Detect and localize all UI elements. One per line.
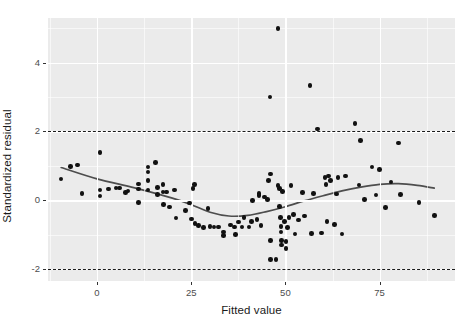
- data-point: [291, 212, 296, 217]
- data-point: [249, 219, 254, 224]
- data-point: [289, 183, 294, 188]
- data-point: [285, 225, 290, 230]
- data-point: [265, 197, 270, 202]
- data-point: [334, 192, 339, 197]
- data-point: [266, 178, 271, 183]
- data-point: [325, 219, 330, 224]
- x-tick-mark: [285, 282, 286, 285]
- data-point: [319, 231, 324, 236]
- y-tick-mark: [43, 200, 46, 201]
- y-tick-mark: [43, 63, 46, 64]
- gridline-minor-vertical: [427, 18, 428, 281]
- data-point: [161, 202, 166, 207]
- y-axis-title-text: Standardized residual: [1, 109, 13, 222]
- data-point: [398, 192, 403, 197]
- data-point: [257, 193, 262, 198]
- data-point: [106, 187, 111, 192]
- gridline-major-horizontal: [48, 63, 455, 64]
- data-point: [136, 182, 141, 187]
- y-tick-mark: [43, 131, 46, 132]
- gridline-minor-horizontal: [48, 97, 455, 98]
- data-point: [153, 160, 158, 165]
- plot-panel: [48, 18, 455, 281]
- y-axis-title: Standardized residual: [0, 0, 26, 332]
- data-point: [80, 191, 85, 196]
- gridline-minor-vertical: [144, 18, 145, 281]
- data-point: [274, 257, 279, 262]
- data-point: [161, 182, 166, 187]
- residual-scatter-plot: Standardized residual Fitted value -2024…: [0, 0, 466, 332]
- data-point: [377, 167, 382, 172]
- x-tick-label: 0: [94, 287, 99, 298]
- gridline-minor-horizontal: [48, 28, 455, 29]
- data-point: [201, 225, 206, 230]
- data-point: [268, 257, 273, 262]
- data-point: [136, 187, 141, 192]
- data-point: [279, 224, 284, 229]
- data-point: [276, 26, 281, 31]
- data-point: [328, 178, 333, 183]
- data-point: [315, 127, 320, 132]
- data-point: [311, 191, 316, 196]
- data-point: [362, 197, 367, 202]
- data-point: [236, 220, 241, 225]
- x-tick-label: 25: [186, 287, 197, 298]
- gridline-minor-horizontal: [48, 166, 455, 167]
- data-point: [146, 178, 151, 183]
- gridline-minor-vertical: [238, 18, 239, 281]
- y-tick-label: 4: [26, 57, 40, 68]
- data-point: [259, 223, 264, 228]
- data-point: [172, 188, 177, 193]
- data-point: [282, 219, 287, 224]
- data-point: [242, 215, 247, 220]
- data-point: [300, 190, 305, 195]
- data-point: [332, 222, 337, 227]
- y-tick-mark: [43, 269, 46, 270]
- data-point: [268, 238, 273, 243]
- x-tick-mark: [97, 282, 98, 285]
- data-point: [155, 185, 160, 190]
- gridline-minor-vertical: [333, 18, 334, 281]
- data-point: [277, 204, 282, 209]
- data-point: [284, 246, 289, 251]
- data-point: [155, 192, 160, 197]
- data-point: [324, 182, 329, 187]
- data-point: [383, 205, 388, 210]
- data-point: [308, 83, 313, 88]
- data-point: [309, 231, 314, 236]
- gridline-major-vertical: [380, 18, 381, 281]
- data-point: [232, 225, 237, 230]
- data-point: [302, 214, 307, 219]
- x-tick-mark: [380, 282, 381, 285]
- data-point: [68, 164, 73, 169]
- data-point: [268, 172, 273, 177]
- x-tick-label: 50: [280, 287, 291, 298]
- data-point: [233, 232, 238, 237]
- data-point: [250, 198, 255, 203]
- x-tick-mark: [191, 282, 192, 285]
- gridline-major-vertical: [191, 18, 192, 281]
- reference-line-upper-threshold: [48, 131, 455, 132]
- x-axis-title: Fitted value: [48, 304, 455, 316]
- y-tick-label: -2: [26, 263, 40, 274]
- data-point: [192, 182, 197, 187]
- data-point: [187, 201, 192, 206]
- reference-line-lower-threshold: [48, 269, 455, 270]
- data-point: [136, 200, 141, 205]
- data-point: [432, 213, 437, 218]
- y-tick-label: 0: [26, 194, 40, 205]
- data-point: [280, 189, 285, 194]
- gridline-minor-vertical: [50, 18, 51, 281]
- data-point: [75, 163, 80, 168]
- gridline-minor-horizontal: [48, 235, 455, 236]
- data-point: [183, 208, 188, 213]
- smooth-trend-line: [48, 18, 455, 281]
- data-point: [221, 233, 226, 238]
- x-tick-label: 75: [374, 287, 385, 298]
- y-tick-label: 2: [26, 125, 40, 136]
